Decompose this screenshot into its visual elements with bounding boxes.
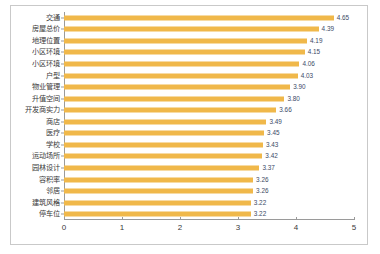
x-axis-tick-label: 4 bbox=[294, 224, 298, 232]
category-label: 医疗 bbox=[46, 130, 60, 137]
bar bbox=[64, 165, 259, 170]
bar-row: 小区环境4.06 bbox=[64, 58, 354, 70]
bar-row: 停车位3.22 bbox=[64, 208, 354, 220]
bar bbox=[64, 73, 298, 78]
bar-value-label: 3.22 bbox=[254, 211, 266, 217]
category-label: 园林设计 bbox=[32, 164, 60, 171]
bar-value-label: 3.43 bbox=[266, 142, 278, 148]
plot-wrapper: 交通4.65房屋总价4.39地理位置4.19小区环境4.15小区环境4.06户型… bbox=[0, 0, 380, 254]
bar-value-label: 4.15 bbox=[308, 49, 320, 55]
x-axis-tick bbox=[122, 217, 123, 220]
bar-value-label: 4.19 bbox=[310, 38, 322, 44]
bar-value-label: 3.80 bbox=[287, 95, 299, 101]
bar bbox=[64, 177, 253, 182]
bar bbox=[64, 61, 299, 66]
bar-value-label: 3.66 bbox=[279, 107, 291, 113]
bar-row: 商店3.49 bbox=[64, 116, 354, 128]
x-axis-tick-label: 3 bbox=[236, 224, 240, 232]
category-label: 交通 bbox=[46, 14, 60, 21]
bar-value-label: 3.42 bbox=[265, 153, 277, 159]
x-axis-tick bbox=[238, 217, 239, 220]
bar bbox=[64, 38, 307, 43]
bar-row: 学校3.43 bbox=[64, 139, 354, 151]
bar-row: 地理位置4.19 bbox=[64, 35, 354, 47]
bar-row: 户型4.03 bbox=[64, 70, 354, 82]
x-axis-tick bbox=[354, 217, 355, 220]
bar-row: 小区环境4.15 bbox=[64, 47, 354, 59]
bar bbox=[64, 27, 319, 32]
category-label: 地理位置 bbox=[32, 37, 60, 44]
category-label: 房屋总价 bbox=[32, 26, 60, 33]
bar bbox=[64, 119, 266, 124]
bar bbox=[64, 200, 251, 205]
bar bbox=[64, 108, 276, 113]
bar-value-label: 4.65 bbox=[337, 15, 349, 21]
bar-value-label: 3.45 bbox=[267, 130, 279, 136]
category-label: 小区环境 bbox=[32, 49, 60, 56]
category-label: 升值空间 bbox=[32, 95, 60, 102]
bar-row: 邻居3.26 bbox=[64, 185, 354, 197]
category-label: 商店 bbox=[46, 118, 60, 125]
bar-value-label: 3.37 bbox=[262, 165, 274, 171]
bar-value-label: 3.22 bbox=[254, 199, 266, 205]
x-axis-tick bbox=[180, 217, 181, 220]
bar-row: 建筑风格3.22 bbox=[64, 197, 354, 209]
bar-value-label: 4.03 bbox=[301, 72, 313, 78]
bar-value-label: 4.06 bbox=[302, 61, 314, 67]
bar-value-label: 3.26 bbox=[256, 176, 268, 182]
category-label: 运动场所 bbox=[32, 153, 60, 160]
x-axis-tick-label: 0 bbox=[62, 224, 66, 232]
category-label: 邻居 bbox=[46, 187, 60, 194]
bar-row: 容积率3.26 bbox=[64, 174, 354, 186]
x-axis: 012345 bbox=[64, 220, 354, 244]
bar-row: 运动场所3.42 bbox=[64, 151, 354, 163]
category-label: 小区环境 bbox=[32, 60, 60, 67]
bar bbox=[64, 85, 290, 90]
x-axis-tick bbox=[64, 217, 65, 220]
category-label: 停车位 bbox=[39, 211, 60, 218]
bar-value-label: 3.49 bbox=[269, 119, 281, 125]
bar bbox=[64, 189, 253, 194]
bar bbox=[64, 154, 262, 159]
bar-row: 交通4.65 bbox=[64, 12, 354, 24]
category-label: 物业管理 bbox=[32, 83, 60, 90]
bar bbox=[64, 142, 263, 147]
bar bbox=[64, 212, 251, 217]
bar bbox=[64, 96, 284, 101]
bar bbox=[64, 50, 305, 55]
bar-row: 物业管理3.90 bbox=[64, 81, 354, 93]
bar-value-label: 3.26 bbox=[256, 188, 268, 194]
x-axis-tick-label: 5 bbox=[352, 224, 356, 232]
bar-row: 园林设计3.37 bbox=[64, 162, 354, 174]
bar bbox=[64, 15, 334, 20]
category-label: 户型 bbox=[46, 72, 60, 79]
x-axis-tick-label: 1 bbox=[120, 224, 124, 232]
x-axis-tick-label: 2 bbox=[178, 224, 182, 232]
bar bbox=[64, 131, 264, 136]
category-label: 建筑风格 bbox=[32, 199, 60, 206]
category-label: 容积率 bbox=[39, 176, 60, 183]
bar-row: 医疗3.45 bbox=[64, 128, 354, 140]
bar-row: 房屋总价4.39 bbox=[64, 24, 354, 36]
x-axis-tick bbox=[296, 217, 297, 220]
bar-value-label: 3.90 bbox=[293, 84, 305, 90]
bar-row: 升值空间3.80 bbox=[64, 93, 354, 105]
category-label: 开发商实力 bbox=[25, 107, 60, 114]
category-label: 学校 bbox=[46, 141, 60, 148]
bar-value-label: 4.39 bbox=[322, 26, 334, 32]
bar-row: 开发商实力3.66 bbox=[64, 104, 354, 116]
chart-figure: 交通4.65房屋总价4.39地理位置4.19小区环境4.15小区环境4.06户型… bbox=[0, 0, 380, 254]
